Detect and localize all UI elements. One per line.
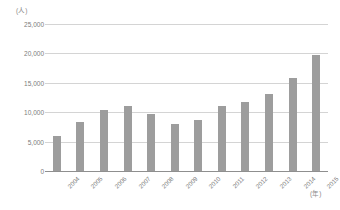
bar bbox=[53, 136, 61, 171]
bar bbox=[171, 124, 179, 171]
x-axis-tick-label: 2012 bbox=[254, 175, 269, 190]
bar-slot bbox=[304, 24, 328, 171]
x-axis-tick-label: 2013 bbox=[278, 175, 293, 190]
bar bbox=[147, 114, 155, 171]
bar-slot bbox=[234, 24, 258, 171]
bar-slot bbox=[163, 24, 187, 171]
x-axis-tick-label: 2005 bbox=[89, 175, 104, 190]
x-axis-tick-label: 2004 bbox=[66, 175, 81, 190]
x-axis-tick-label: 2010 bbox=[207, 175, 222, 190]
x-axis-tick-label: 2006 bbox=[113, 175, 128, 190]
plot-area bbox=[45, 24, 328, 172]
bar bbox=[265, 94, 273, 171]
bar bbox=[312, 55, 320, 171]
bar bbox=[241, 102, 249, 171]
bar bbox=[194, 120, 202, 171]
y-axis-tick-label: 15,000 bbox=[4, 79, 44, 86]
bar-slot bbox=[281, 24, 305, 171]
bar-slot bbox=[116, 24, 140, 171]
x-axis-unit-label: (年) bbox=[310, 188, 321, 198]
bar-series bbox=[45, 24, 328, 171]
y-axis-tick-label: 10,000 bbox=[4, 109, 44, 116]
y-axis-tick-label: 5,000 bbox=[4, 138, 44, 145]
x-axis-tick-label: 2011 bbox=[231, 175, 245, 189]
bar-slot bbox=[257, 24, 281, 171]
bar-slot bbox=[92, 24, 116, 171]
bar bbox=[76, 122, 84, 171]
y-axis-tick-label: 25,000 bbox=[4, 21, 44, 28]
x-axis-line bbox=[45, 171, 328, 172]
x-axis-tick-label: 2015 bbox=[325, 175, 340, 190]
bar-slot bbox=[45, 24, 69, 171]
y-axis-tick-label: 0 bbox=[4, 168, 44, 175]
x-axis-tick-label: 2007 bbox=[137, 175, 152, 190]
bar-slot bbox=[139, 24, 163, 171]
bar bbox=[218, 106, 226, 171]
bar bbox=[289, 78, 297, 171]
bar bbox=[100, 110, 108, 171]
x-axis-tick-label: 2009 bbox=[184, 175, 199, 190]
bar bbox=[124, 106, 132, 171]
x-axis-tick-label: 2008 bbox=[160, 175, 175, 190]
y-axis-unit-label: (人) bbox=[16, 5, 27, 15]
y-axis-tick-label: 20,000 bbox=[4, 50, 44, 57]
bar-slot bbox=[69, 24, 93, 171]
bar-slot bbox=[210, 24, 234, 171]
bar-slot bbox=[187, 24, 211, 171]
